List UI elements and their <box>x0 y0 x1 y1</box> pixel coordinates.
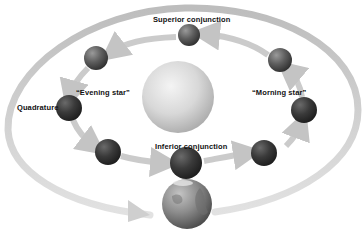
planet-morning-star <box>291 97 317 123</box>
earth <box>162 179 212 229</box>
planet-inferior-conjunction <box>170 147 202 179</box>
label-inferior-conjunction: Inferior conjunction <box>155 142 227 151</box>
label-quadrature: Quadrature <box>17 103 58 112</box>
earth-orbit-arrow-icon <box>128 200 150 222</box>
planet-upper-left <box>84 46 108 70</box>
label-evening-star: “Evening star” <box>76 88 130 97</box>
label-morning-star: “Morning star” <box>252 88 306 97</box>
planet-quadrature <box>56 95 82 121</box>
planet-lower-left <box>95 139 121 165</box>
orbital-diagram <box>0 0 363 236</box>
planet-superior-conjunction <box>178 24 200 46</box>
planet-lower-right <box>251 140 277 166</box>
label-superior-conjunction: Superior conjunction <box>153 15 230 24</box>
planet-upper-right <box>268 48 292 72</box>
sun <box>142 61 214 133</box>
